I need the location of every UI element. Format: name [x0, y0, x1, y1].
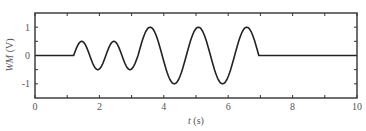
- x-tick-label: 2: [97, 101, 102, 112]
- x-axis-label: t (s): [188, 115, 204, 127]
- y-tick-labels: 10-1: [22, 22, 30, 90]
- wm-waveform-line: [35, 27, 357, 84]
- y-tick-label: 1: [25, 22, 30, 33]
- y-tick-label: -1: [22, 78, 30, 89]
- x-tick-label: 0: [33, 101, 38, 112]
- x-tick-labels: 0246810: [33, 101, 363, 112]
- x-tick-label: 4: [161, 101, 166, 112]
- y-axis-unit: (V): [4, 38, 16, 54]
- y-axis-var: WM: [4, 54, 15, 71]
- y-axis-label: WM (V): [4, 38, 16, 71]
- x-tick-label: 8: [290, 101, 295, 112]
- x-tick-label: 10: [352, 101, 362, 112]
- y-tick-label: 0: [25, 50, 30, 61]
- x-axis-unit: (s): [191, 115, 204, 127]
- x-tick-label: 6: [226, 101, 231, 112]
- waveform-chart: 0246810 10-1 t (s) WM (V): [0, 0, 366, 131]
